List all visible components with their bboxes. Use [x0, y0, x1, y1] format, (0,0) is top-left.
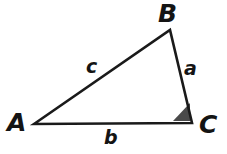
vertex-label-c: C [199, 112, 217, 137]
vertex-label-a: A [7, 110, 26, 135]
vertex-label-b: B [158, 1, 177, 26]
triangle-figure: A B C c a b [0, 0, 227, 154]
side-label-a: a [184, 59, 197, 78]
side-label-c: c [86, 57, 97, 76]
side-label-b: b [104, 128, 118, 147]
